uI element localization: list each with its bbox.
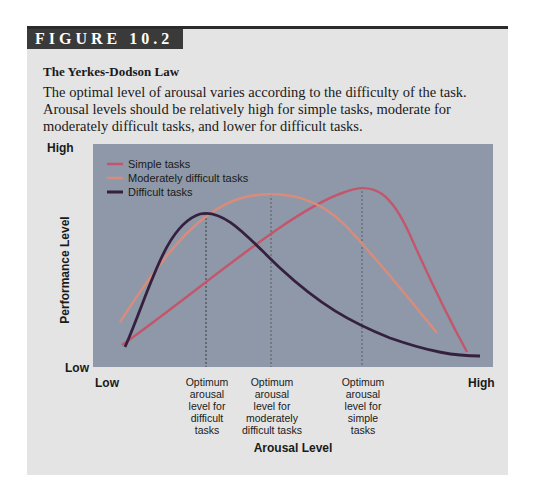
legend-label-moderate: Moderately difficult tasks [128, 172, 249, 184]
legend-label-difficult: Difficult tasks [128, 186, 193, 198]
optimum-label-simple: Optimum arousal level for simple tasks [342, 376, 385, 436]
x-axis-high: High [468, 376, 495, 390]
y-axis-low: Low [65, 361, 90, 375]
svg-text:simple: simple [348, 412, 379, 424]
svg-text:difficult: difficult [191, 412, 224, 424]
svg-text:arousal: arousal [255, 388, 289, 400]
svg-text:Optimum: Optimum [342, 376, 385, 388]
svg-text:level for: level for [345, 400, 382, 412]
svg-text:arousal: arousal [346, 388, 380, 400]
y-axis-high: High [47, 141, 74, 155]
y-axis-title: Performance Level [58, 216, 72, 323]
chart: Simple tasks Moderately difficult tasks … [0, 0, 535, 501]
svg-text:Optimum: Optimum [186, 376, 229, 388]
optimum-label-moderate: Optimum arousal level for moderately dif… [242, 376, 302, 436]
svg-text:tasks: tasks [351, 424, 376, 436]
svg-text:level for: level for [254, 400, 291, 412]
svg-text:difficult tasks: difficult tasks [242, 424, 302, 436]
optimum-label-difficult: Optimum arousal level for difficult task… [186, 376, 229, 436]
svg-text:arousal: arousal [190, 388, 224, 400]
svg-text:tasks: tasks [195, 424, 220, 436]
x-axis-low: Low [95, 376, 120, 390]
svg-text:moderately: moderately [246, 412, 299, 424]
x-axis-title: Arousal Level [254, 441, 333, 455]
svg-text:level for: level for [189, 400, 226, 412]
svg-text:Optimum: Optimum [251, 376, 294, 388]
legend-label-simple: Simple tasks [128, 158, 191, 170]
